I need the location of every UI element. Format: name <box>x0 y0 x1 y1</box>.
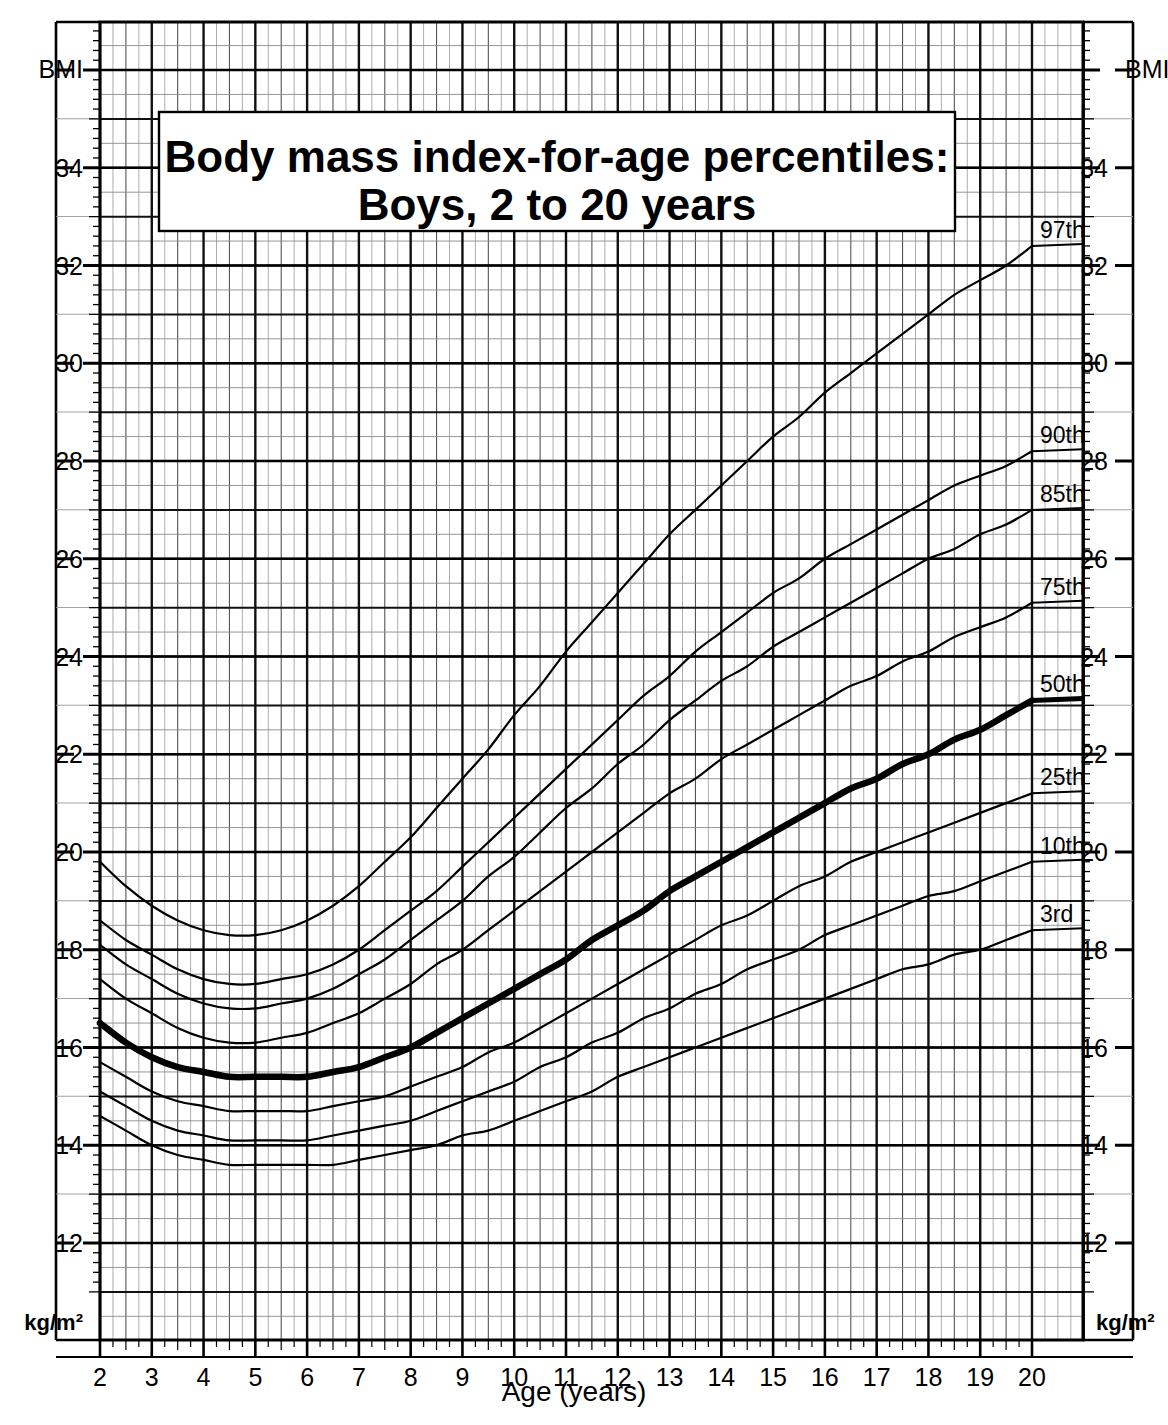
y-tick-label-left-14: 14 <box>55 1131 83 1159</box>
x-tick-label-16: 16 <box>811 1363 839 1391</box>
y-tick-label-left-18: 18 <box>55 936 83 964</box>
y-tick-label-left-32: 32 <box>55 252 83 280</box>
percentile-label-97th: 97th <box>1040 217 1085 243</box>
y-tick-label-right-34: 34 <box>1080 154 1108 182</box>
percentile-label-10th: 10th <box>1040 833 1085 859</box>
y-tick-label-right-18: 18 <box>1080 936 1108 964</box>
chart-title-box: Body mass index-for-age percentiles: Boy… <box>159 112 955 231</box>
y-tick-label-right-14: 14 <box>1080 1131 1108 1159</box>
y-tick-label-right-32: 32 <box>1080 252 1108 280</box>
x-tick-label-18: 18 <box>915 1363 943 1391</box>
y-tick-label-left-26: 26 <box>55 545 83 573</box>
percentile-label-25th: 25th <box>1040 764 1085 790</box>
percentile-label-50th: 50th <box>1040 671 1085 697</box>
x-axis-title: Age (years) <box>502 1376 647 1407</box>
x-tick-label-2: 2 <box>93 1363 107 1391</box>
x-tick-label-20: 20 <box>1018 1363 1046 1391</box>
x-tick-label-5: 5 <box>248 1363 262 1391</box>
y-tick-label-left-16: 16 <box>55 1034 83 1062</box>
y-tick-label-right-26: 26 <box>1080 545 1108 573</box>
y-axis-left-top-label: BMI <box>39 55 83 83</box>
y-tick-label-left-12: 12 <box>55 1229 83 1257</box>
y-tick-label-right-30: 30 <box>1080 349 1108 377</box>
y-tick-label-right-24: 24 <box>1080 643 1108 671</box>
x-tick-label-15: 15 <box>759 1363 787 1391</box>
percentile-label-3rd: 3rd <box>1040 901 1073 927</box>
percentile-label-90th: 90th <box>1040 422 1085 448</box>
x-tick-label-3: 3 <box>145 1363 159 1391</box>
x-tick-label-14: 14 <box>707 1363 735 1391</box>
x-tick-label-6: 6 <box>300 1363 314 1391</box>
y-axis-right-top-label: BMI <box>1125 55 1168 83</box>
y-tick-label-left-30: 30 <box>55 349 83 377</box>
y-tick-label-right-28: 28 <box>1080 447 1108 475</box>
percentile-label-75th: 75th <box>1040 574 1085 600</box>
chart-title: Body mass index-for-age percentiles: <box>165 132 950 181</box>
y-axis-right-units-label: kg/m² <box>1096 1310 1155 1335</box>
x-tick-label-8: 8 <box>404 1363 418 1391</box>
y-tick-label-left-22: 22 <box>55 740 83 768</box>
bmi-growth-chart: 1212141416161818202022222424262628283030… <box>0 0 1168 1425</box>
percentile-leader-50th <box>1032 698 1083 700</box>
y-tick-label-left-34: 34 <box>55 154 83 182</box>
y-tick-label-left-20: 20 <box>55 838 83 866</box>
chart-subtitle: Boys, 2 to 20 years <box>358 180 757 229</box>
x-tick-label-13: 13 <box>656 1363 684 1391</box>
y-axis-left-units-label: kg/m² <box>24 1310 83 1335</box>
percentile-label-85th: 85th <box>1040 481 1085 507</box>
x-tick-label-19: 19 <box>966 1363 994 1391</box>
x-tick-label-7: 7 <box>352 1363 366 1391</box>
chart-svg: 1212141416161818202022222424262628283030… <box>0 0 1168 1425</box>
y-tick-label-left-24: 24 <box>55 643 83 671</box>
x-tick-label-9: 9 <box>455 1363 469 1391</box>
y-tick-label-right-16: 16 <box>1080 1034 1108 1062</box>
x-tick-label-17: 17 <box>863 1363 891 1391</box>
y-tick-label-right-12: 12 <box>1080 1229 1108 1257</box>
x-tick-label-4: 4 <box>197 1363 211 1391</box>
y-tick-label-left-28: 28 <box>55 447 83 475</box>
